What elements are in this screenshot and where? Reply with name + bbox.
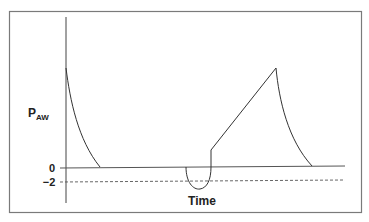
airway-pressure-figure: PAW 0 −2 Time xyxy=(0,0,369,222)
x-axis-title: Time xyxy=(188,194,216,208)
y-tick-label-minus-2: −2 xyxy=(43,176,56,188)
inspiratory-dip-curve xyxy=(186,167,211,189)
ramp-line xyxy=(211,68,276,167)
y-tick-label-0: 0 xyxy=(49,162,55,174)
initial-decay-curve xyxy=(66,68,100,167)
y-axis-title: PAW xyxy=(28,106,49,122)
zero-line xyxy=(60,166,345,168)
second-decay-curve xyxy=(276,68,312,166)
minus-two-line xyxy=(60,180,345,182)
chart-svg: PAW 0 −2 Time xyxy=(0,0,369,222)
